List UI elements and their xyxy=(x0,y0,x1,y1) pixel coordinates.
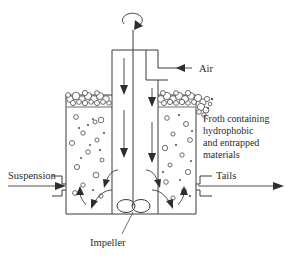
tails-outlet-arrow-icon xyxy=(196,176,284,196)
impeller-leader-line xyxy=(122,212,133,234)
downward-flow-arrow-icon xyxy=(120,58,128,158)
froth-description-line-1: Froth containing xyxy=(203,113,269,124)
froth-description-line-4: materials xyxy=(203,149,240,160)
air-downcomer-housing xyxy=(112,50,176,214)
suspension-liquid-zone xyxy=(162,114,193,200)
impeller-label: Impeller xyxy=(90,237,126,248)
froth-description-line-3: and entrapped xyxy=(203,137,259,148)
suspension-liquid-zone xyxy=(70,115,106,198)
flotation-cell-drawing: Air xyxy=(0,0,292,258)
froth-description-line-2: hydrophobic xyxy=(203,125,254,136)
froth-bubble-layer xyxy=(66,90,112,105)
tails-label: Tails xyxy=(216,170,236,181)
downward-flow-arrow-icon xyxy=(148,88,156,163)
suspension-label: Suspension xyxy=(8,170,57,181)
air-label: Air xyxy=(199,63,214,74)
rotation-arrow-icon xyxy=(122,13,143,30)
flotation-tank xyxy=(66,95,196,214)
froth-flotation-diagram: Air xyxy=(0,0,292,258)
air-inlet-arrow-icon xyxy=(176,64,192,72)
